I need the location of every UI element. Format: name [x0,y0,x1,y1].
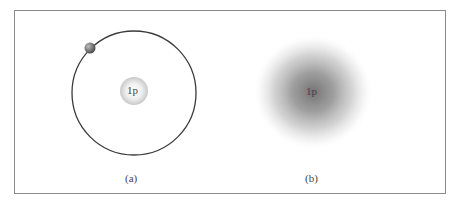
nucleus-label-b: 1p [306,85,317,97]
electron [85,43,96,54]
caption-b: (b) [305,172,318,184]
atom-diagram [0,0,458,209]
caption-a: (a) [125,172,137,184]
nucleus-label-a: 1p [127,84,138,96]
